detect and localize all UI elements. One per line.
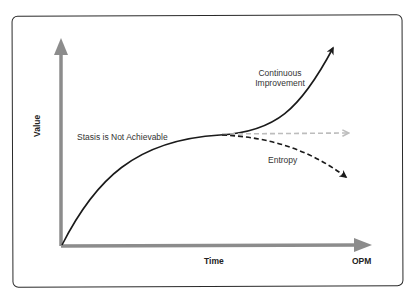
stasis-line <box>222 133 348 134</box>
x-axis-arrow-icon <box>354 238 372 252</box>
x-axis-label: Time <box>204 256 224 266</box>
continuous-improvement-curve <box>220 48 333 135</box>
entropy-annotation: Entropy <box>268 155 297 165</box>
improvement-line-2: Improvement <box>245 78 315 88</box>
stasis-annotation: Stasis is Not Achievable <box>77 132 168 142</box>
improvement-annotation: Continuous Improvement <box>245 68 315 88</box>
growth-curve <box>62 135 220 245</box>
y-axis-label: Value <box>32 115 42 137</box>
y-axis-arrow-icon <box>54 38 68 55</box>
corner-label: OPM <box>352 256 371 266</box>
improvement-line-1: Continuous <box>245 68 315 78</box>
x-axis <box>61 238 372 252</box>
y-axis <box>54 38 68 246</box>
